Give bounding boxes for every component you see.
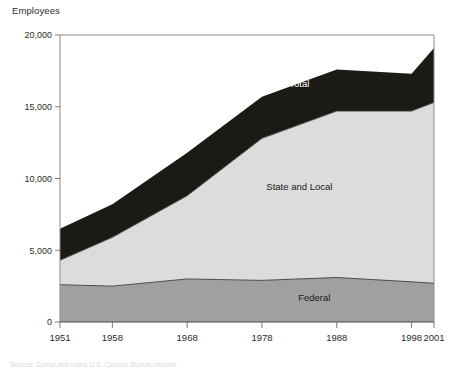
x-tick-label: 2001: [423, 332, 444, 343]
y-tick-label: 10,000: [24, 174, 52, 184]
series-annotation-total: Total: [289, 78, 309, 89]
y-tick-label: 20,000: [24, 30, 52, 40]
x-tick-label: 1958: [102, 332, 123, 343]
x-tick-label: 1978: [251, 332, 272, 343]
source-footnote: Source: Computed using U.S. Census Burea…: [10, 361, 177, 368]
x-tick-label: 1998: [401, 332, 422, 343]
y-axis-ticks-group: 05,00010,00015,00020,000: [24, 30, 60, 327]
x-tick-label: 1951: [49, 332, 70, 343]
y-tick-label: 15,000: [24, 102, 52, 112]
x-tick-label: 1968: [177, 332, 198, 343]
x-axis-ticks-group: 1951195819681978198819982001: [49, 322, 444, 343]
series-annotation-state-and-local: State and Local: [266, 181, 332, 192]
y-tick-label: 0: [47, 317, 52, 327]
y-tick-label: 5,000: [29, 246, 52, 256]
series-annotation-federal: Federal: [298, 292, 330, 303]
x-tick-label: 1988: [326, 332, 347, 343]
